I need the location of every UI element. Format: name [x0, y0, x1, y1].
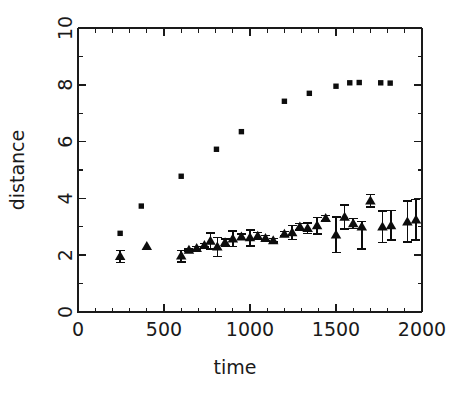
data-point-triangle [228, 234, 239, 243]
x-tick-label: 1500 [312, 318, 360, 340]
x-tick-label: 500 [146, 318, 182, 340]
data-point-triangle [365, 195, 376, 204]
data-point-triangle [320, 213, 331, 222]
axis-spine-left-bottom [78, 28, 422, 312]
data-point-square [139, 203, 144, 208]
data-point-triangle [302, 223, 313, 232]
data-point-triangle [279, 229, 290, 238]
data-point-square [357, 80, 362, 85]
data-point-triangle [268, 235, 279, 244]
data-point-square [387, 80, 392, 85]
x-tick-label: 2000 [398, 318, 446, 340]
data-point-triangle [411, 214, 422, 223]
tick-marks [78, 28, 422, 312]
x-axis-label: time [214, 356, 257, 378]
data-point-triangle [377, 222, 388, 231]
data-point-triangle [357, 222, 368, 231]
data-point-triangle [331, 230, 342, 239]
y-axis-label: distance [6, 130, 28, 211]
y-tick-labels: 0246810 [54, 16, 76, 318]
y-tick-label: 4 [54, 192, 76, 204]
y-tick-label: 8 [54, 79, 76, 91]
data-point-triangle [236, 232, 247, 241]
error-bars [116, 194, 421, 262]
y-tick-label: 6 [54, 136, 76, 148]
data-point-square [333, 84, 338, 89]
x-tick-label: 0 [72, 318, 84, 340]
data-point-triangle [115, 251, 126, 260]
x-tick-labels: 0500100015002000 [72, 318, 446, 340]
data-point-square [307, 91, 312, 96]
data-point-triangle [402, 216, 413, 225]
axes [78, 28, 422, 312]
data-point-square [378, 80, 383, 85]
data-point-triangle [386, 220, 397, 229]
data-point-square [347, 80, 352, 85]
data-point-square [282, 99, 287, 104]
data-point-square [214, 147, 219, 152]
figure-container: 0500100015002000 0246810 time distance [0, 0, 460, 393]
x-tick-label: 1000 [226, 318, 274, 340]
data-point-triangle [348, 218, 359, 227]
data-point-triangle [245, 232, 256, 241]
data-point-square [117, 231, 122, 236]
data-point-triangle [339, 212, 350, 221]
data-point-triangle [142, 241, 153, 250]
series-triangles [115, 195, 421, 260]
y-tick-label: 10 [54, 16, 76, 40]
data-point-square [179, 174, 184, 179]
scatter-plot: 0500100015002000 0246810 time distance [0, 0, 460, 393]
y-tick-label: 2 [54, 249, 76, 261]
data-point-triangle [260, 233, 271, 242]
series-squares [117, 80, 392, 236]
y-tick-label: 0 [54, 306, 76, 318]
data-point-square [239, 129, 244, 134]
